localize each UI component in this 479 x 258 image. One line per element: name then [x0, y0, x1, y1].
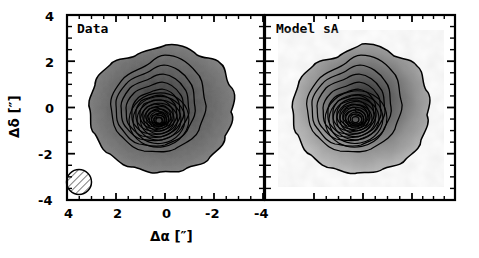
- figure-canvas: [0, 0, 479, 258]
- figure-root: Δδ [″] Δα [″] 4 2 0 -2 -4 4 2 0 -2 -4 Da…: [0, 0, 479, 258]
- beam-ellipse: [67, 170, 92, 195]
- panel-model: [292, 44, 430, 174]
- panel-data: [67, 44, 235, 194]
